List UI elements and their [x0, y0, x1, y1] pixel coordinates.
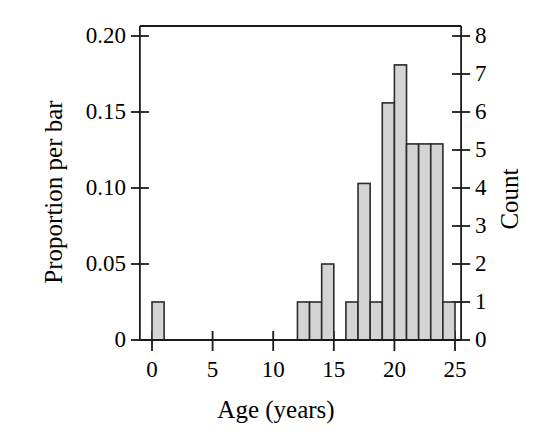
- x-tick-label: 20: [364, 358, 424, 381]
- histogram-bar: [407, 144, 419, 340]
- x-axis-label: Age (years): [0, 396, 552, 424]
- y-tick-label-right: 0: [475, 328, 515, 351]
- histogram-bar: [382, 103, 394, 340]
- x-tick-label: 5: [183, 358, 243, 381]
- y-tick-label-left: 0.05: [36, 252, 126, 275]
- y-tick-label-left: 0.10: [36, 176, 126, 199]
- y-tick-label-left: 0.15: [36, 100, 126, 123]
- y-tick-label-right: 3: [475, 214, 515, 237]
- histogram-bar: [370, 302, 382, 340]
- y-tick-label-right: 5: [475, 138, 515, 161]
- histogram-bar: [346, 302, 358, 340]
- histogram-figure: Proportion per bar Count Age (years) 00.…: [0, 0, 552, 438]
- histogram-bar: [431, 144, 443, 340]
- y-tick-label-right: 1: [475, 290, 515, 313]
- x-tick-label: 15: [304, 358, 364, 381]
- histogram-bar: [443, 302, 455, 340]
- y-tick-label-right: 6: [475, 100, 515, 123]
- y-tick-label-left: 0: [36, 328, 126, 351]
- histogram-bar: [419, 144, 431, 340]
- y-tick-label-right: 4: [475, 176, 515, 199]
- x-tick-label: 10: [243, 358, 303, 381]
- x-tick-label: 0: [122, 358, 182, 381]
- histogram-bars: [152, 65, 455, 340]
- y-tick-label-right: 2: [475, 252, 515, 275]
- histogram-bar: [358, 183, 370, 340]
- histogram-bar: [394, 65, 406, 340]
- histogram-bar: [152, 302, 164, 340]
- histogram-bar: [297, 302, 309, 340]
- y-tick-label-left: 0.20: [36, 24, 126, 47]
- y-tick-label-right: 8: [475, 24, 515, 47]
- histogram-bar: [310, 302, 322, 340]
- histogram-bar: [322, 264, 334, 340]
- y-tick-label-right: 7: [475, 62, 515, 85]
- x-tick-label: 25: [425, 358, 485, 381]
